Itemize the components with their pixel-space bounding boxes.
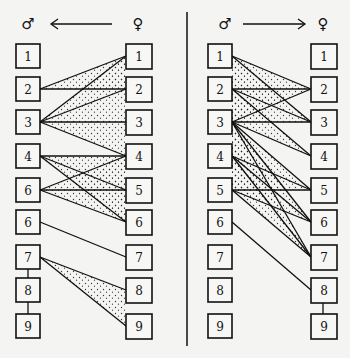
left-female-node-5: 5 bbox=[126, 178, 152, 203]
shaded-fans bbox=[40, 56, 311, 326]
male-symbol: ♂ bbox=[218, 15, 231, 33]
left-male-node-2: 2 bbox=[16, 77, 40, 101]
svg-text:5: 5 bbox=[216, 184, 224, 198]
left-male-node-6: 6 bbox=[16, 210, 40, 234]
svg-text:7: 7 bbox=[135, 251, 143, 265]
svg-text:8: 8 bbox=[216, 284, 224, 298]
svg-text:4: 4 bbox=[216, 150, 224, 164]
left-male-node-5: 6 bbox=[16, 178, 40, 202]
left-header: ♂♀ bbox=[21, 15, 143, 33]
right-male-node-6: 6 bbox=[208, 210, 232, 234]
svg-text:2: 2 bbox=[24, 83, 32, 97]
svg-text:2: 2 bbox=[135, 83, 143, 97]
right-female-node-6: 6 bbox=[311, 210, 337, 235]
svg-text:6: 6 bbox=[320, 216, 328, 230]
svg-text:4: 4 bbox=[24, 150, 32, 164]
svg-text:6: 6 bbox=[216, 216, 224, 230]
left-male-node-7: 7 bbox=[16, 245, 40, 269]
svg-text:9: 9 bbox=[216, 320, 224, 334]
left-female-node-4: 4 bbox=[126, 144, 152, 169]
svg-text:6: 6 bbox=[24, 216, 32, 230]
svg-text:5: 5 bbox=[135, 184, 143, 198]
female-symbol: ♀ bbox=[133, 15, 144, 33]
right-female-node-9: 9 bbox=[311, 314, 337, 339]
svg-text:9: 9 bbox=[320, 320, 328, 334]
svg-text:7: 7 bbox=[320, 251, 328, 265]
svg-text:7: 7 bbox=[216, 251, 224, 265]
svg-text:6: 6 bbox=[135, 216, 143, 230]
right-male-node-4: 4 bbox=[208, 144, 232, 168]
right-female-node-8: 8 bbox=[311, 278, 337, 303]
svg-text:2: 2 bbox=[320, 83, 328, 97]
right-male-node-3: 3 bbox=[208, 110, 232, 134]
svg-text:9: 9 bbox=[24, 320, 32, 334]
right-female-node-5: 5 bbox=[311, 178, 337, 203]
svg-text:8: 8 bbox=[24, 284, 32, 298]
left-female-node-7: 7 bbox=[126, 245, 152, 270]
left-female-node-9: 9 bbox=[126, 314, 152, 339]
right-male-node-8: 8 bbox=[208, 278, 232, 302]
right-female-node-4: 4 bbox=[311, 144, 337, 169]
svg-text:9: 9 bbox=[135, 320, 143, 334]
right-male-node-5: 5 bbox=[208, 178, 232, 202]
svg-text:5: 5 bbox=[320, 184, 328, 198]
svg-text:1: 1 bbox=[24, 50, 32, 64]
svg-text:1: 1 bbox=[320, 50, 328, 64]
svg-text:8: 8 bbox=[135, 284, 143, 298]
left-female-node-8: 8 bbox=[126, 278, 152, 303]
connection-line bbox=[40, 222, 126, 257]
svg-text:4: 4 bbox=[320, 150, 328, 164]
svg-text:7: 7 bbox=[24, 251, 32, 265]
svg-text:3: 3 bbox=[216, 116, 224, 130]
svg-text:4: 4 bbox=[135, 150, 143, 164]
right-header: ♂♀ bbox=[218, 15, 328, 33]
right-male-node-2: 2 bbox=[208, 77, 232, 101]
left-female-node-2: 2 bbox=[126, 77, 152, 102]
right-female-node-2: 2 bbox=[311, 77, 337, 102]
right-male-node-7: 7 bbox=[208, 245, 232, 269]
svg-text:1: 1 bbox=[216, 50, 224, 64]
male-symbol: ♂ bbox=[21, 15, 34, 33]
left-female-node-3: 3 bbox=[126, 110, 152, 135]
svg-text:3: 3 bbox=[135, 116, 143, 130]
left-male-node-4: 4 bbox=[16, 144, 40, 168]
svg-text:3: 3 bbox=[24, 116, 32, 130]
right-male-node-1: 1 bbox=[208, 44, 232, 68]
right-female-node-7: 7 bbox=[311, 245, 337, 270]
svg-text:3: 3 bbox=[320, 116, 328, 130]
left-male-node-3: 3 bbox=[16, 110, 40, 134]
svg-text:1: 1 bbox=[135, 50, 143, 64]
left-male-node-9: 9 bbox=[16, 314, 40, 338]
left-female-node-1: 1 bbox=[126, 44, 152, 69]
svg-text:2: 2 bbox=[216, 83, 224, 97]
right-female-node-3: 3 bbox=[311, 110, 337, 135]
female-symbol: ♀ bbox=[318, 15, 329, 33]
mating-diagram: ♂♀ ♂♀ 1234667891234567891234567891234567… bbox=[0, 0, 350, 358]
svg-text:8: 8 bbox=[320, 284, 328, 298]
connection-line bbox=[232, 222, 311, 290]
left-male-node-1: 1 bbox=[16, 44, 40, 68]
left-male-node-8: 8 bbox=[16, 278, 40, 302]
right-male-node-9: 9 bbox=[208, 314, 232, 338]
right-female-node-1: 1 bbox=[311, 44, 337, 69]
left-female-node-6: 6 bbox=[126, 210, 152, 235]
svg-text:6: 6 bbox=[24, 184, 32, 198]
